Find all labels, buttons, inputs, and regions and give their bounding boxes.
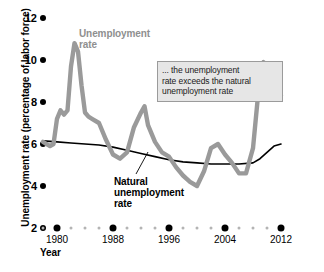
plot-area [0,0,324,272]
unemployment-rate-label: Unemployment rate [79,28,150,50]
callout-annotation: ... the unemployment rate exceeds the na… [157,61,283,102]
unemployment-chart: Unemployment rate (percentage of labor f… [0,0,324,272]
natural-rate-label: Natural unemployment rate [114,176,184,209]
natural-label-leader-line [136,152,148,174]
